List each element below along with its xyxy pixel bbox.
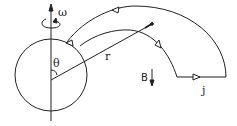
current-arrowhead-icon	[193, 74, 200, 80]
axis-arrow-icon	[49, 4, 53, 11]
omega-label: ω	[58, 6, 67, 19]
current-arrowhead-icon	[66, 40, 73, 46]
rotation-arrowhead-icon	[53, 18, 57, 23]
field-label: B	[141, 72, 148, 83]
radius-line	[51, 24, 152, 80]
radius-label: r	[105, 50, 111, 63]
field-arrow-icon	[150, 80, 154, 86]
theta-angle-arc	[51, 70, 57, 75]
current-arrowhead-icon	[112, 7, 119, 13]
current-label: j	[200, 84, 205, 97]
theta-label: θ	[53, 57, 60, 70]
rotating-sphere-current-loop-diagram: ω θ r B j	[0, 0, 237, 126]
outer-current-arc	[67, 6, 226, 77]
